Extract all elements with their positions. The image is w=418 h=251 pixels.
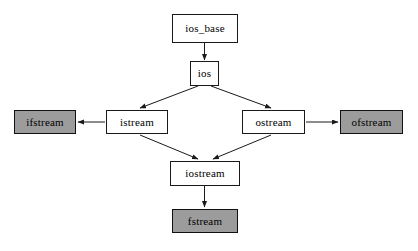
node-label-fstream: fstream (188, 215, 222, 226)
node-ios-base[interactable]: ios_base (172, 14, 238, 43)
node-label-ofstream: ofstream (351, 116, 391, 127)
node-label-ostream: ostream (255, 116, 291, 127)
node-iostream[interactable]: iostream (170, 161, 240, 186)
node-ifstream[interactable]: ifstream (14, 110, 76, 134)
node-ostream[interactable]: ostream (242, 110, 305, 134)
node-label-iostream: iostream (185, 168, 224, 179)
node-istream[interactable]: istream (106, 110, 168, 134)
node-ofstream[interactable]: ofstream (340, 110, 403, 134)
node-fstream[interactable]: fstream (172, 209, 238, 233)
edge-ostream-to-iostream (213, 135, 271, 159)
node-label-istream: istream (120, 116, 154, 127)
edge-ios-to-ostream (211, 86, 271, 108)
edge-istream-to-iostream (140, 135, 198, 159)
node-ios[interactable]: ios (190, 61, 219, 86)
class-hierarchy-diagram: ios_base ios ifstream istream ostream of… (0, 0, 418, 251)
node-label-ifstream: ifstream (26, 116, 64, 127)
edge-ios-to-istream (140, 86, 198, 108)
node-label-ios-base: ios_base (185, 23, 224, 34)
node-label-ios: ios (198, 68, 211, 79)
